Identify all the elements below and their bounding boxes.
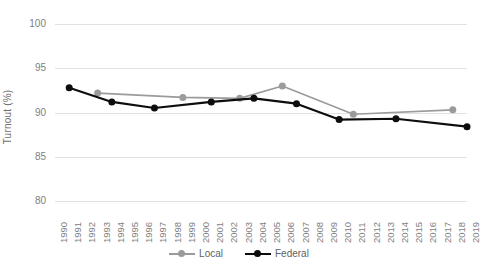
legend-item-federal[interactable]: Federal [245,248,309,259]
y-tick-label: 95 [20,63,46,73]
x-tick-label: 2013 [386,222,396,243]
x-tick-label: 2000 [201,222,211,243]
x-tick-label: 2009 [329,222,339,243]
x-tick-label: 1990 [59,222,69,243]
data-point-local [449,106,456,113]
data-point-federal [151,105,158,112]
x-tick-label: 2003 [244,222,254,243]
x-tick-label: 1993 [102,222,112,243]
x-tick-label: 2016 [428,222,438,243]
legend-dot [254,250,261,257]
legend-swatch-icon [169,249,195,259]
data-point-local [179,94,186,101]
x-tick-label: 2015 [414,222,424,243]
data-point-federal [464,123,471,130]
data-point-local [350,111,357,118]
y-tick-label: 90 [20,108,46,118]
data-point-federal [250,95,257,102]
y-tick-label: 100 [20,19,46,29]
data-point-federal [208,98,215,105]
x-tick-label: 2002 [229,222,239,243]
x-tick-label: 2006 [286,222,296,243]
x-axis-tick-labels: 1990199119921993199419951996199719981999… [0,201,478,245]
data-point-federal [66,84,73,91]
plot-area [55,24,467,201]
x-tick-label: 1992 [87,222,97,243]
y-axis-title: Turnout (%) [2,72,13,162]
legend-label: Federal [275,248,309,259]
legend-swatch-icon [245,249,271,259]
x-tick-label: 2011 [357,223,367,243]
legend-label: Local [199,248,223,259]
data-point-federal [336,116,343,123]
x-tick-label: 2019 [471,222,481,243]
x-tick-label: 2004 [258,222,268,243]
x-tick-label: 2001 [215,222,225,243]
data-point-federal [293,100,300,107]
x-tick-label: 2014 [400,222,410,243]
series-line-federal [69,88,467,127]
x-tick-label: 1991 [73,222,83,243]
x-tick-label: 2012 [372,222,382,243]
data-point-federal [108,98,115,105]
x-tick-label: 2018 [457,222,467,243]
x-tick-label: 2008 [315,222,325,243]
x-tick-label: 2007 [301,222,311,243]
x-tick-label: 2005 [272,222,282,243]
x-tick-label: 1999 [187,222,197,243]
x-tick-label: 2010 [343,222,353,243]
legend-item-local[interactable]: Local [169,248,223,259]
x-tick-label: 2017 [443,222,453,243]
data-point-federal [392,115,399,122]
x-tick-label: 1996 [144,222,154,243]
x-tick-label: 1998 [173,222,183,243]
x-tick-label: 1995 [130,222,140,243]
legend-dot [178,250,185,257]
series-canvas [55,24,467,201]
data-point-local [279,82,286,89]
chart-legend: LocalFederal [0,248,478,259]
x-tick-label: 1997 [158,222,168,243]
y-tick-label: 85 [20,152,46,162]
x-tick-label: 1994 [116,222,126,243]
